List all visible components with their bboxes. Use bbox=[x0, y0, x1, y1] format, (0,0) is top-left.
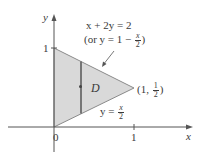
y-tick-label: 1 bbox=[43, 43, 49, 54]
vertex-point-label: (1, 12) bbox=[137, 82, 163, 99]
origin-label: 0 bbox=[53, 132, 59, 143]
lower-boundary-equation: y = x2 bbox=[100, 104, 125, 121]
x-tick-label: 1 bbox=[131, 132, 137, 143]
upper-boundary-alt: (or y = 1 − x2) bbox=[84, 32, 145, 49]
pointer-arrow-icon bbox=[102, 62, 107, 68]
strip-dot bbox=[79, 85, 82, 88]
y-axis-label: y bbox=[43, 12, 48, 23]
x-axis-label: x bbox=[186, 131, 191, 142]
upper-boundary-equation: x + 2y = 2 bbox=[86, 20, 131, 31]
region-label: D bbox=[91, 82, 100, 94]
x-axis-arrow-icon bbox=[186, 125, 193, 130]
y-axis-arrow-icon bbox=[52, 14, 57, 21]
